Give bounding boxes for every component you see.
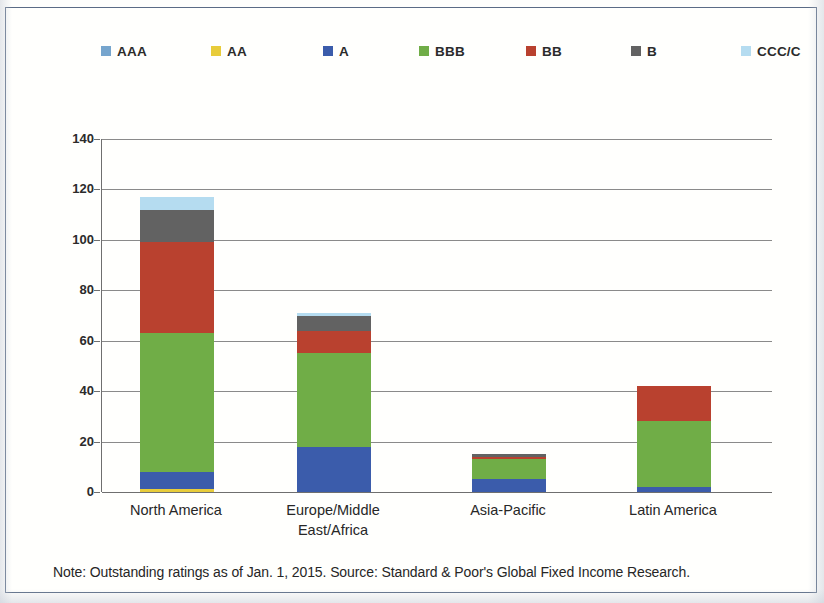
- y-tick-mark-140: [94, 139, 100, 140]
- bar-segment-a[interactable]: [140, 472, 214, 490]
- y-tick-label-140: 140: [50, 131, 94, 146]
- legend-swatch-icon: [323, 46, 333, 56]
- legend-label: AAA: [117, 44, 147, 59]
- x-label-line: Europe/Middle: [248, 500, 418, 520]
- legend-item-b[interactable]: B: [631, 44, 657, 59]
- bar-segment-a[interactable]: [637, 487, 711, 492]
- x-axis-category-labels: North AmericaEurope/MiddleEast/AfricaAsi…: [101, 500, 771, 548]
- y-tick-mark-20: [94, 442, 100, 443]
- legend-swatch-icon: [741, 46, 751, 56]
- legend-item-a[interactable]: A: [323, 44, 349, 59]
- y-tick-mark-60: [94, 341, 100, 342]
- x-label-north-america: North America: [91, 500, 261, 520]
- legend-label: A: [339, 44, 349, 59]
- bar-group-europe-middle-east-africa[interactable]: [297, 313, 371, 492]
- y-tick-label-40: 40: [50, 383, 94, 398]
- y-axis-tick-labels: 020406080100120140: [44, 139, 94, 492]
- bar-segment-bbb[interactable]: [140, 333, 214, 472]
- legend-swatch-icon: [419, 46, 429, 56]
- bar-segment-bb[interactable]: [637, 386, 711, 421]
- x-label-line: Asia-Pacific: [423, 500, 593, 520]
- legend-item-aa[interactable]: AA: [211, 44, 247, 59]
- bar-segment-aa[interactable]: [140, 489, 214, 492]
- legend-swatch-icon: [211, 46, 221, 56]
- bar-segment-a[interactable]: [297, 447, 371, 492]
- scanned-page: AAAAAABBBBBBCCC/C 020406080100120140 Nor…: [0, 0, 824, 603]
- y-tick-mark-0: [94, 492, 100, 493]
- legend-item-aaa[interactable]: AAA: [101, 44, 147, 59]
- bar-segment-bbb[interactable]: [297, 353, 371, 446]
- legend-label: B: [647, 44, 657, 59]
- y-tick-label-60: 60: [50, 333, 94, 348]
- chart-legend: AAAAAABBBBBBCCC/C: [101, 41, 761, 61]
- bar-segment-a[interactable]: [472, 479, 546, 492]
- y-tick-mark-120: [94, 189, 100, 190]
- bar-segment-bb[interactable]: [297, 331, 371, 354]
- legend-label: BBB: [435, 44, 465, 59]
- bar-group-asia-pacific[interactable]: [472, 454, 546, 492]
- y-tick-label-20: 20: [50, 434, 94, 449]
- bar-segment-bbb[interactable]: [472, 459, 546, 479]
- x-label-asia-pacific: Asia-Pacific: [423, 500, 593, 520]
- bar-segment-b[interactable]: [140, 210, 214, 243]
- y-tick-label-120: 120: [50, 181, 94, 196]
- legend-item-bbb[interactable]: BBB: [419, 44, 465, 59]
- bar-series-container: [102, 139, 772, 492]
- y-tick-label-100: 100: [50, 232, 94, 247]
- chart-frame: AAAAAABBBBBBCCC/C 020406080100120140 Nor…: [5, 7, 817, 593]
- bar-segment-bbb[interactable]: [637, 421, 711, 487]
- bar-group-latin-america[interactable]: [637, 386, 711, 492]
- legend-item-ccc-c[interactable]: CCC/C: [741, 44, 801, 59]
- bar-segment-b[interactable]: [297, 316, 371, 331]
- legend-swatch-icon: [526, 46, 536, 56]
- x-label-latin-america: Latin America: [588, 500, 758, 520]
- y-tick-label-80: 80: [50, 282, 94, 297]
- bar-group-north-america[interactable]: [140, 197, 214, 492]
- legend-label: AA: [227, 44, 247, 59]
- source-note: Note: Outstanding ratings as of Jan. 1, …: [53, 564, 793, 580]
- y-tick-mark-40: [94, 391, 100, 392]
- x-label-line: Latin America: [588, 500, 758, 520]
- x-label-line: East/Africa: [248, 520, 418, 540]
- plot-area: [101, 139, 772, 492]
- y-tick-label-0: 0: [50, 484, 94, 499]
- y-tick-mark-80: [94, 290, 100, 291]
- legend-item-bb[interactable]: BB: [526, 44, 562, 59]
- legend-label: CCC/C: [757, 44, 801, 59]
- bar-segment-ccc-c[interactable]: [140, 197, 214, 210]
- legend-swatch-icon: [101, 46, 111, 56]
- x-label-line: North America: [91, 500, 261, 520]
- y-tick-mark-100: [94, 240, 100, 241]
- gridline-0: [102, 492, 772, 493]
- x-label-europe-middle-east-africa: Europe/MiddleEast/Africa: [248, 500, 418, 540]
- bar-segment-bb[interactable]: [140, 242, 214, 333]
- legend-swatch-icon: [631, 46, 641, 56]
- legend-label: BB: [542, 44, 562, 59]
